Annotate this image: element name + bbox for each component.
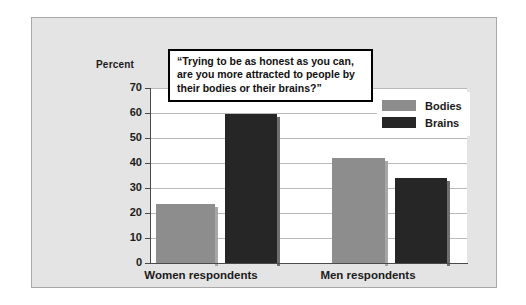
- y-axis-tick-labels: 70 60 50 40 30 20 10 0: [98, 18, 142, 287]
- legend-swatch-brains-icon: [382, 117, 416, 128]
- y-tickmark-30: [145, 188, 150, 189]
- y-tick-label-40: 40: [102, 157, 142, 168]
- y-tick-label-20: 20: [102, 207, 142, 218]
- chart-title-text: “Trying to be as honest as you can, are …: [177, 55, 365, 95]
- x-category-label-women: Women respondents: [136, 269, 266, 281]
- bar-shadow: [447, 181, 450, 266]
- y-tickmark-50: [145, 138, 150, 139]
- bar-shadow: [385, 161, 388, 266]
- bar-fill: [156, 204, 215, 263]
- x-category-label-men: Men respondents: [308, 269, 428, 281]
- y-tick-label-30: 30: [102, 182, 142, 193]
- y-tick-label-0: 0: [102, 257, 142, 268]
- y-tickmark-70: [145, 88, 150, 89]
- chart-title-callout: “Trying to be as honest as you can, are …: [168, 49, 373, 102]
- legend-label-brains: Brains: [425, 117, 459, 129]
- bar-shadow: [215, 207, 218, 266]
- x-axis-line: [150, 263, 468, 264]
- bar-women-bodies: [156, 204, 215, 263]
- y-tickmark-0: [145, 263, 150, 264]
- bar-fill: [395, 178, 447, 263]
- bar-men-brains: [395, 178, 447, 263]
- gridline-50: [150, 138, 467, 139]
- legend-item-bodies: Bodies: [382, 97, 466, 114]
- bar-women-brains: [225, 114, 277, 263]
- y-axis-line: [150, 88, 151, 264]
- y-tick-label-70: 70: [102, 82, 142, 93]
- legend-item-brains: Brains: [382, 114, 466, 131]
- y-tick-label-50: 50: [102, 132, 142, 143]
- legend-label-bodies: Bodies: [425, 100, 462, 112]
- y-tickmark-60: [145, 113, 150, 114]
- bar-fill: [225, 114, 277, 263]
- gridline-40: [150, 163, 467, 164]
- y-tickmark-40: [145, 163, 150, 164]
- legend-swatch-bodies-icon: [382, 100, 416, 111]
- y-tick-label-10: 10: [102, 232, 142, 243]
- chart-panel: Percent: [31, 17, 497, 288]
- bar-men-bodies: [332, 158, 385, 263]
- chart-legend: Bodies Brains: [377, 92, 470, 136]
- y-tickmark-10: [145, 238, 150, 239]
- bar-fill: [332, 158, 385, 263]
- y-tick-label-60: 60: [102, 107, 142, 118]
- bar-shadow: [277, 117, 280, 266]
- y-tickmark-20: [145, 213, 150, 214]
- chart-figure: Percent: [0, 0, 526, 305]
